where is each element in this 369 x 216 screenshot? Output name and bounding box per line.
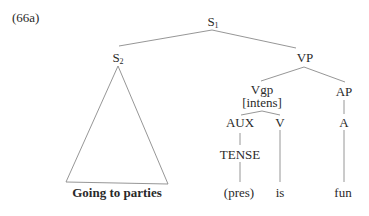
node-vp: VP [297, 51, 314, 65]
node-v: V [275, 116, 284, 130]
node-ap: AP [336, 85, 353, 99]
node-s2: S2 [112, 51, 123, 69]
leaf-s2-phrase: Going to parties [72, 186, 162, 200]
node-s1: S1 [207, 15, 218, 33]
example-number: (66a) [12, 10, 39, 26]
node-vgp-feature: [intens] [242, 96, 282, 110]
node-a: A [339, 116, 348, 130]
leaf-is: is [276, 186, 285, 200]
node-aux: AUX [226, 116, 254, 130]
tree-branches [0, 0, 369, 216]
leaf-fun: fun [334, 186, 351, 200]
leaf-pres: (pres) [224, 186, 254, 200]
node-tense: TENSE [220, 148, 260, 162]
